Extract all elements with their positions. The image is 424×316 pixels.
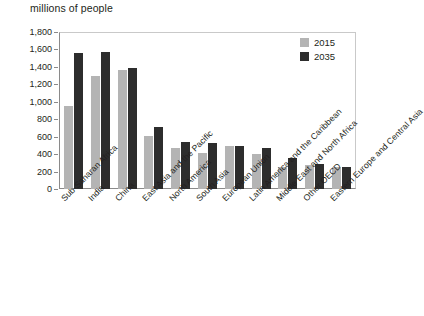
legend-label: 2015 — [314, 37, 335, 48]
legend-item[interactable]: 2015 — [300, 36, 354, 49]
bar-2015 — [64, 106, 73, 189]
y-axis-tick-mark — [54, 137, 58, 138]
chart-title: millions of people — [30, 2, 113, 14]
chart-legend: 20152035 — [300, 36, 354, 64]
y-axis-tick-label: 1,400 — [29, 62, 52, 72]
y-axis-tick-label: 200 — [37, 167, 52, 177]
bar-2035 — [101, 52, 110, 189]
y-axis-tick-mark — [54, 102, 58, 103]
y-axis-tick-mark — [54, 49, 58, 50]
y-axis-tick-mark — [54, 154, 58, 155]
y-axis-tick-label: 1,800 — [29, 27, 52, 37]
bar-2035 — [128, 68, 137, 189]
y-axis-labels: 1,8001,6001,4001,2001,0008006004002000 — [0, 26, 52, 196]
y-axis-tick-label: 1,000 — [29, 97, 52, 107]
legend-swatch-icon — [300, 52, 309, 61]
bar-group — [225, 32, 244, 189]
y-axis-tick-mark — [54, 67, 58, 68]
y-axis-tick-label: 1,200 — [29, 79, 52, 89]
y-axis-tick-label: 400 — [37, 149, 52, 159]
bar-group — [64, 32, 83, 189]
legend-label: 2035 — [314, 51, 335, 62]
y-axis-tick-mark — [54, 32, 58, 33]
bar-group — [118, 32, 137, 189]
y-axis-tick-mark — [54, 119, 58, 120]
bar-2015 — [118, 70, 127, 189]
legend-swatch-icon — [300, 38, 309, 47]
y-axis-tick-mark — [54, 172, 58, 173]
bar-2035 — [74, 53, 83, 189]
y-axis-tick-mark — [54, 84, 58, 85]
y-axis-tick-label: 1,600 — [29, 44, 52, 54]
y-axis-tick-label: 600 — [37, 132, 52, 142]
x-axis-category-labels: Sub-Saharan AfricaIndiaChinaEast Asia an… — [0, 190, 364, 316]
y-axis-tick-label: 800 — [37, 114, 52, 124]
bar-2015 — [144, 136, 153, 189]
bar-group — [144, 32, 163, 189]
legend-item[interactable]: 2035 — [300, 50, 354, 63]
